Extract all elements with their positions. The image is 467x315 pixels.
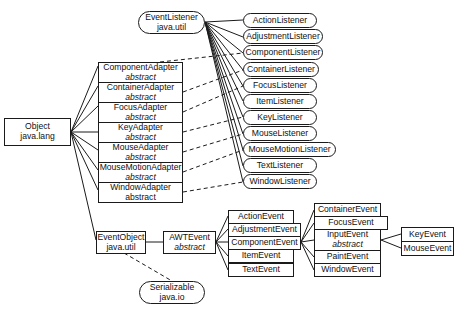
event-focus: FocusEvent xyxy=(314,216,388,230)
listener-name: TextListener xyxy=(257,161,303,171)
event-name: MouseEvent xyxy=(404,244,452,254)
adapter-modifier: abstract xyxy=(125,153,156,163)
listener-focus: FocusListener xyxy=(243,78,317,93)
listener-name: MouseMotionListener xyxy=(248,145,330,155)
event-name: ContainerEvent xyxy=(318,205,377,215)
adapter-key: KeyAdapter abstract xyxy=(98,122,183,143)
event-adjustment: AdjustmentEvent xyxy=(228,223,301,237)
event-name: ComponentEvent xyxy=(231,238,297,248)
serializable-interface: Serializable java.io xyxy=(139,281,205,304)
listener-text: TextListener xyxy=(243,158,317,173)
object-package: java.lang xyxy=(20,132,54,142)
listener-key: KeyListener xyxy=(243,110,317,125)
adapter-container: ContainerAdapter abstract xyxy=(98,82,183,103)
adapter-modifier: abstract xyxy=(125,193,156,203)
listener-name: AdjustmentListener xyxy=(246,32,320,42)
listener-action: ActionListener xyxy=(243,13,317,28)
awt-event-modifier: abstract xyxy=(174,243,205,253)
adapter-modifier: abstract xyxy=(125,93,156,103)
listener-item: ItemListener xyxy=(243,94,317,109)
object-class-box: Object java.lang xyxy=(4,118,71,146)
event-container: ContainerEvent xyxy=(314,203,381,217)
event-item: ItemEvent xyxy=(228,249,294,263)
listener-container: ContainerListener xyxy=(243,62,319,77)
listener-window: WindowListener xyxy=(243,174,317,189)
event-name: ActionEvent xyxy=(238,212,284,222)
event-window: WindowEvent xyxy=(314,263,381,277)
listener-component: ComponentListener xyxy=(243,45,323,60)
event-action: ActionEvent xyxy=(228,210,294,224)
listener-name: KeyListener xyxy=(257,113,302,123)
event-name: ItemEvent xyxy=(242,251,281,261)
event-listener-package: java.util xyxy=(157,23,186,33)
serializable-package: java.io xyxy=(160,293,185,303)
event-name: PaintEvent xyxy=(327,252,369,262)
adapter-modifier: abstract xyxy=(125,73,156,83)
listener-mouse-motion: MouseMotionListener xyxy=(243,142,336,157)
listener-adjustment: AdjustmentListener xyxy=(243,29,323,44)
listener-name: ComponentListener xyxy=(245,48,320,58)
event-name: KeyEvent xyxy=(409,230,446,240)
event-mouse: MouseEvent xyxy=(401,241,454,256)
listener-name: MouseListener xyxy=(252,129,308,139)
adapter-modifier: abstract xyxy=(125,113,156,123)
event-component: ComponentEvent xyxy=(228,236,301,250)
adapter-modifier: abstract xyxy=(125,173,156,183)
adapter-modifier: abstract xyxy=(125,133,156,143)
event-object-class-box: EventObject java.util xyxy=(96,231,146,254)
adapter-focus: FocusAdapter abstract xyxy=(98,102,183,123)
listener-name: WindowListener xyxy=(249,177,310,187)
event-modifier: abstract xyxy=(332,240,363,250)
listener-name: FocusListener xyxy=(253,81,307,91)
listener-name: ActionListener xyxy=(253,16,307,26)
event-name: AdjustmentEvent xyxy=(232,225,297,235)
event-name: FocusEvent xyxy=(328,218,373,228)
awt-event-class-box: AWTEvent abstract xyxy=(163,231,216,254)
event-listener-interface: EventListener java.util xyxy=(138,11,205,34)
event-input: InputEvent abstract xyxy=(314,229,381,251)
event-text: TextEvent xyxy=(228,263,294,277)
adapter-window: WindowAdapter abstract xyxy=(98,182,183,203)
adapter-mouse-motion: MouseMotionAdapter abstract xyxy=(98,162,183,183)
event-key: KeyEvent xyxy=(401,227,454,242)
event-name: TextEvent xyxy=(242,265,280,275)
listener-name: ItemListener xyxy=(256,97,303,107)
adapter-component: ComponentAdapter abstract xyxy=(98,62,183,83)
event-object-package: java.util xyxy=(106,243,135,253)
adapter-mouse: MouseAdapter abstract xyxy=(98,142,183,163)
listener-mouse: MouseListener xyxy=(243,126,317,141)
listener-name: ContainerListener xyxy=(247,65,315,75)
event-paint: PaintEvent xyxy=(314,250,381,264)
event-name: WindowEvent xyxy=(321,265,374,275)
